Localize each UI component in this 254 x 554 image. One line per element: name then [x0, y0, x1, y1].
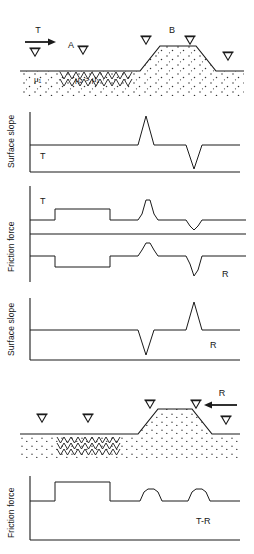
label-bump-B: B	[169, 25, 175, 35]
trace-surface-slope-R	[30, 302, 240, 355]
axis-label-surface-slope: Surface slope	[6, 115, 16, 168]
label-trace-T-minus-R: T-R	[196, 516, 211, 526]
trace-surface-slope-T	[30, 116, 240, 169]
trace-friction-force-R	[30, 243, 246, 276]
label-direction-R: R	[219, 388, 226, 398]
axis-label-surface-slope: Surface slope	[6, 303, 16, 356]
panel-surface-slope-T: T Surface slope	[0, 100, 254, 182]
trace-friction-force-T	[30, 200, 246, 230]
panel-profile-forward: T A B μ₁ μ₂ > μ₁	[0, 0, 254, 100]
label-patch-A: A	[68, 40, 74, 50]
label-mu2-gt-mu1: μ₂ > μ₁	[75, 75, 99, 84]
direction-arrow-reverse	[204, 401, 237, 408]
label-direction-T: T	[35, 25, 41, 35]
subsurface-fill	[20, 409, 240, 460]
panel-profile-reverse: R	[0, 372, 254, 468]
figure-root: T A B μ₁ μ₂ > μ₁ T Surface slope T R Fri…	[0, 0, 254, 554]
axis-label-friction-force: Friction force	[6, 221, 16, 272]
survey-markers	[36, 400, 231, 424]
axis-label-friction-force: Friction force	[6, 487, 16, 538]
panel-friction-force-difference: T-R Friction force	[0, 468, 254, 554]
label-trace-T: T	[40, 196, 46, 206]
label-mu1: μ₁	[34, 75, 42, 84]
subsurface-fill	[20, 46, 244, 96]
panel-friction-force-T-R: T R Friction force	[0, 182, 254, 288]
label-trace-R: R	[222, 269, 229, 279]
label-trace-T: T	[40, 151, 46, 161]
trace-friction-force-difference	[30, 482, 240, 501]
label-trace-R: R	[210, 340, 217, 350]
direction-arrow-forward	[25, 38, 56, 45]
panel-surface-slope-R: R Surface slope	[0, 288, 254, 372]
